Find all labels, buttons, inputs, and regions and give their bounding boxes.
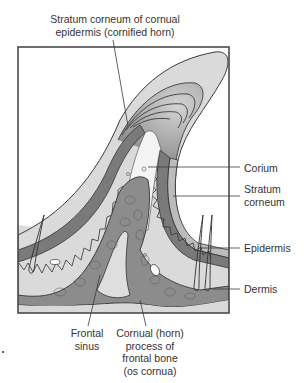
label-line: Stratum (244, 183, 285, 196)
label-line: corneum (244, 196, 285, 209)
label-line: Cornual (horn) (112, 327, 188, 340)
label-corium: Corium (244, 162, 278, 175)
diagram-body (18, 47, 230, 313)
label-cornual-process: Cornual (horn) process of frontal bone (… (112, 327, 188, 377)
stray-mark (2, 351, 4, 353)
label-line: Frontal (64, 327, 110, 340)
label-line: epidermis (cornified horn) (50, 26, 180, 39)
label-dermis: Dermis (244, 283, 277, 296)
label-stratum-corneum: Stratum corneum (244, 183, 285, 208)
label-line: frontal bone (112, 352, 188, 365)
label-frontal-sinus: Frontal sinus (64, 327, 110, 352)
label-epidermis: Epidermis (244, 242, 291, 255)
label-line: process of (112, 340, 188, 353)
label-line: (os cornua) (112, 365, 188, 378)
label-line: Stratum corneum of cornual (50, 13, 180, 26)
label-line: sinus (64, 340, 110, 353)
vessel-left (50, 260, 60, 265)
label-top-stratum-corneum-cornual: Stratum corneum of cornual epidermis (co… (50, 13, 180, 38)
